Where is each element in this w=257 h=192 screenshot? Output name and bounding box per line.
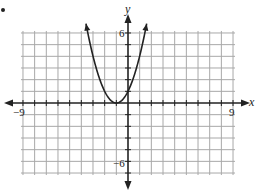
parabola-left-arrow-icon — [84, 24, 90, 31]
x-axis-left-arrow-icon — [4, 100, 13, 107]
y-max-tick-label: 6 — [119, 28, 125, 39]
y-min-tick-label: −6 — [113, 158, 125, 169]
x-axis-label: x — [249, 96, 254, 108]
coordinate-plane — [0, 0, 257, 192]
x-max-tick-label: 9 — [229, 107, 235, 118]
parabola-right-arrow-icon — [142, 24, 148, 31]
y-axis-down-arrow-icon — [125, 181, 132, 190]
x-min-tick-label: −9 — [13, 107, 25, 118]
y-axis-label: y — [125, 3, 130, 15]
